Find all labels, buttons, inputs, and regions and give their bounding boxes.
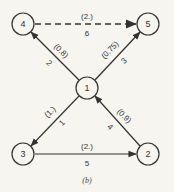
edge-6: (2.) 6 <box>35 12 136 38</box>
node-3: 3 <box>12 143 34 165</box>
arrow-2-to-1 <box>95 96 140 146</box>
edge-2: (0.8) 2 <box>31 32 79 80</box>
edge-3: (0.75) 3 <box>95 32 140 80</box>
edge-5-weight: (2.) <box>81 142 93 151</box>
edge-5-number: 5 <box>85 159 90 168</box>
edge-1-weight: (1.) <box>43 104 58 119</box>
edge-1: (1.) 1 <box>31 96 79 146</box>
edge-1-number: 1 <box>57 118 67 128</box>
arrow-1-to-4 <box>31 32 79 80</box>
graph-canvas: (2.) 6 (0.8) 2 (0.75) 3 (1.) 1 (0.9) 4 (… <box>0 0 174 192</box>
edge-6-number: 6 <box>85 29 90 38</box>
edge-2-weight: (0.8) <box>52 42 70 60</box>
node-3-label: 3 <box>20 149 25 159</box>
arrow-1-to-3 <box>31 96 79 146</box>
edge-4-weight: (0.9) <box>115 107 133 125</box>
node-4: 4 <box>12 13 34 35</box>
node-5-label: 5 <box>145 19 150 29</box>
edge-2-number: 2 <box>44 58 54 68</box>
edge-6-weight: (2.) <box>81 12 93 21</box>
edge-4-number: 4 <box>105 122 115 132</box>
edge-5: (2.) 5 <box>35 142 136 168</box>
node-1-label: 1 <box>84 83 89 93</box>
edge-3-weight: (0.75) <box>99 39 120 60</box>
node-1: 1 <box>76 77 98 99</box>
edge-3-number: 3 <box>119 56 129 66</box>
node-4-label: 4 <box>20 19 25 29</box>
node-5: 5 <box>137 13 159 35</box>
figure-caption: (b) <box>82 176 92 185</box>
edge-4: (0.9) 4 <box>95 96 140 146</box>
node-2-label: 2 <box>145 149 150 159</box>
network-diagram: (2.) 6 (0.8) 2 (0.75) 3 (1.) 1 (0.9) 4 (… <box>0 0 174 192</box>
node-2: 2 <box>137 143 159 165</box>
